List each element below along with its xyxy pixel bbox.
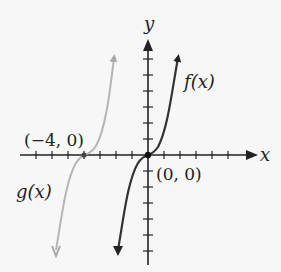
- origin-point: [145, 152, 151, 158]
- point-label-origin: (0, 0): [156, 164, 202, 184]
- y-axis-label: y: [143, 13, 155, 34]
- curve-f-bottom-arrow-icon: [113, 246, 123, 256]
- point-label-neg4-0: (−4, 0): [24, 130, 84, 150]
- x-axis-label: x: [260, 144, 270, 165]
- f-label: f(x): [182, 71, 215, 92]
- point-neg4-0: [81, 152, 86, 157]
- x-axis-arrow-icon: [246, 150, 258, 160]
- g-label: g(x): [16, 181, 52, 202]
- x-axis: [20, 150, 258, 160]
- graph-figure: y x f(x) g(x) (−4, 0) (0, 0): [0, 0, 281, 272]
- y-axis-arrow-icon: [143, 39, 153, 51]
